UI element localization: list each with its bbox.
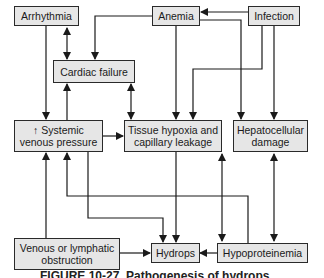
node-arrhythmia: Arrhythmia <box>14 6 79 26</box>
node-venous-lymphatic-obstruction: Venous or lymphatic obstruction <box>14 238 120 270</box>
hydrops-pathogenesis-diagram: Arrhythmia Anemia Infection Cardiac fail… <box>0 0 324 278</box>
figure-caption: FIGURE 10-27. Pathogenesis of hydrops <box>40 269 300 278</box>
node-hydrops: Hydrops <box>151 243 200 263</box>
node-infection: Infection <box>248 6 300 26</box>
node-anemia: Anemia <box>152 6 200 26</box>
node-hepatocellular-damage: Hepatocellular damage <box>233 120 308 152</box>
node-hypoproteinemia: Hypoproteinemia <box>217 243 308 263</box>
node-tissue-hypoxia: Tissue hypoxia and capillary leakage <box>124 120 222 152</box>
node-cardiac-failure: Cardiac failure <box>53 60 135 83</box>
node-systemic-venous-pressure: ↑ Systemic venous pressure <box>14 120 103 152</box>
